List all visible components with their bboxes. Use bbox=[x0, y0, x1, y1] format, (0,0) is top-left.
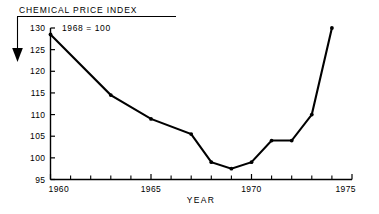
y-tick-label-110: 110 bbox=[31, 110, 46, 120]
data-point-1963 bbox=[109, 93, 113, 97]
y-tick-label-100: 100 bbox=[30, 153, 45, 163]
chart-svg: CHEMICAL PRICE INDEX 1968 = 100 95100105… bbox=[0, 0, 379, 214]
y-tick-label-130: 130 bbox=[30, 23, 45, 33]
data-point-1968 bbox=[209, 160, 213, 164]
y-tick-label-105: 105 bbox=[30, 131, 45, 141]
chemical-price-index-figure: CHEMICAL PRICE INDEX 1968 = 100 95100105… bbox=[0, 0, 379, 214]
chart-background bbox=[0, 0, 379, 214]
data-point-1969 bbox=[230, 167, 234, 171]
x-tick-label-1970: 1970 bbox=[241, 184, 262, 194]
y-tick-label-120: 120 bbox=[30, 66, 45, 76]
x-tick-label-1975: 1975 bbox=[335, 184, 356, 194]
y-tick-label-125: 125 bbox=[30, 45, 45, 55]
chart-subtitle: 1968 = 100 bbox=[62, 23, 111, 33]
x-tick-label-1960: 1960 bbox=[49, 184, 70, 194]
x-axis-title: YEAR bbox=[187, 195, 216, 205]
data-point-1965 bbox=[149, 117, 153, 121]
y-tick-label-115: 115 bbox=[31, 88, 46, 98]
data-point-1971 bbox=[270, 139, 274, 143]
data-point-1972 bbox=[290, 139, 294, 143]
x-tick-label-1965: 1965 bbox=[141, 184, 162, 194]
chart-title: CHEMICAL PRICE INDEX bbox=[19, 5, 137, 15]
data-point-1973 bbox=[310, 113, 314, 117]
data-point-1974 bbox=[330, 26, 334, 30]
y-tick-label-95: 95 bbox=[35, 175, 45, 185]
data-point-1970 bbox=[250, 160, 254, 164]
data-point-1967 bbox=[189, 132, 193, 136]
data-point-1960 bbox=[49, 33, 53, 37]
